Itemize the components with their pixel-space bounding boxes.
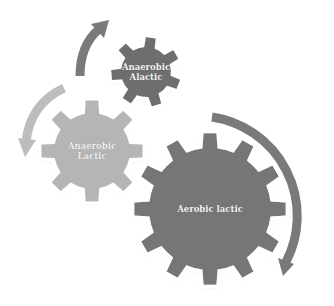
gear-label-line1: Anaerobic [68,141,116,151]
gear-label-line2: Lactic [68,151,116,161]
diagram-canvas [0,0,334,306]
gear-label-line1: Anaerobic [122,62,170,72]
arrowhead-down-left [18,138,36,157]
arrow-top [80,20,109,76]
curved-arrow-up-icon [80,30,98,76]
gear-label-line2: Alactic [122,72,170,82]
gear-label-aerobic-lactic: Aerobic lactic [177,204,243,214]
gear-label-anaerobic-alactic: Anaerobic Alactic [122,62,170,82]
gear-label-line1: Aerobic lactic [177,204,243,214]
gear-label-anaerobic-lactic: Anaerobic Lactic [68,141,116,161]
energy-systems-gear-diagram: Anaerobic Alactic Anaerobic Lactic Aerob… [0,0,334,306]
